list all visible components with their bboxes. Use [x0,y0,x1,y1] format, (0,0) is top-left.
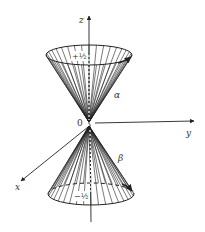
lower-state-label: β [117,153,123,163]
upper-spin-label: +½ [72,52,87,61]
y-axis-label: y [185,128,192,138]
upper-state-label: α [114,90,120,100]
x-axis-label: x [15,182,20,192]
x-axis [21,127,88,181]
lower-spin-label: −½ [74,192,89,201]
lower-cone-lines [48,126,134,205]
z-axis-label: z [78,15,84,25]
origin-label: 0 [77,118,83,128]
y-axis [95,121,194,123]
spin-cones-diagram: z y x 0 +½ α −½ β [0,0,205,232]
